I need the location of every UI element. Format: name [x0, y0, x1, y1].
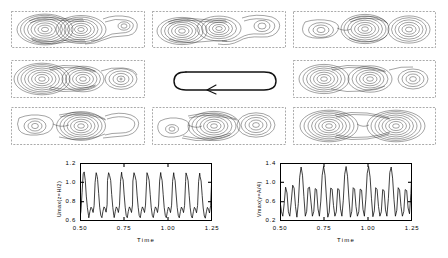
contour-panel-r1c3	[293, 11, 436, 48]
vmax-y-tick-2: 1.0	[258, 179, 276, 185]
umax-x-tick-2: 0.75	[112, 225, 136, 231]
umax-y-tick-1: 1.2	[58, 160, 76, 166]
umax-y-tick-4: 0.6	[58, 217, 76, 223]
vmax-y-tick-4: 0.2	[258, 217, 276, 223]
vmax-y-tick-1: 1.4	[258, 160, 276, 166]
contour-panel-r1c2	[152, 11, 286, 48]
vmax-curve	[280, 163, 412, 221]
umax-y-tick-2: 1.0	[58, 179, 76, 185]
vmax-x-tick-3: 1.00	[356, 225, 380, 231]
umax-x-axis-label: Time	[116, 237, 176, 243]
vmax-x-tick-2: 0.75	[312, 225, 336, 231]
contour-panel-r2c1	[11, 60, 145, 98]
vmax-x-tick-1: 0.50	[268, 225, 292, 231]
contour-panel-r3c2	[152, 107, 286, 145]
umax-x-tick-3: 1.00	[156, 225, 180, 231]
umax-plot: Umax(z=H/2) 1.2 1.0 0.8 0.6 0.50 0.75 1.…	[0, 155, 220, 258]
vmax-x-tick-4: 1.25	[400, 225, 424, 231]
contour-panel-r2c3	[293, 60, 436, 98]
contour-panel-r3c1	[11, 107, 145, 145]
contour-panel-r3c3	[293, 107, 436, 145]
vmax-x-axis-label: Time	[316, 237, 376, 243]
umax-x-tick-4: 1.25	[200, 225, 224, 231]
umax-y-tick-3: 0.8	[58, 198, 76, 204]
vmax-plot: Vmax(y=A/4) 1.4 1.0 0.6 0.2 0.50 0.75 1.…	[228, 155, 448, 258]
vmax-y-tick-3: 0.6	[258, 198, 276, 204]
umax-x-tick-1: 0.50	[68, 225, 92, 231]
contour-panel-r1c1	[11, 11, 145, 48]
scientific-figure: Umax(z=H/2) 1.2 1.0 0.8 0.6 0.50 0.75 1.…	[0, 0, 448, 258]
umax-curve	[80, 163, 212, 221]
cycle-arrow-icon	[166, 62, 284, 102]
